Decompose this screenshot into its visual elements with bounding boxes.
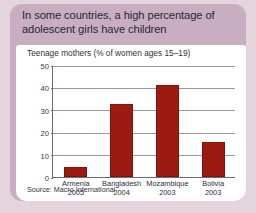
bar [202,142,225,177]
plot-wrapper: 01020304050Armenia2005Bangladesh2004Moza… [16,45,246,201]
category-year: 2003 [145,189,191,198]
bar [156,85,179,177]
y-axis-tick-mark [51,178,53,179]
plot-area: 01020304050Armenia2005Bangladesh2004Moza… [52,66,235,178]
source-note: Source: Macro International [27,185,115,194]
y-axis-tick-mark [51,110,53,111]
bar [64,167,87,177]
y-axis-tick-label: 50 [41,62,49,71]
category-name: Mozambique [146,179,188,188]
y-axis-tick-mark [51,155,53,156]
gridline [53,110,235,111]
figure-card: In some countries, a high percentage of … [10,4,246,201]
x-axis-category-label: Bolivia2003 [190,180,236,197]
gridline [53,133,235,134]
y-axis-tick-label: 0 [45,174,49,183]
category-name: Bolivia [202,179,224,188]
bar [110,104,133,177]
gridline [53,88,235,89]
y-axis-tick-label: 20 [41,129,49,138]
category-year: 2003 [190,189,236,198]
y-axis-tick-mark [51,133,53,134]
y-axis-tick-mark [51,88,53,89]
y-axis-tick-label: 40 [41,84,49,93]
y-axis-tick-mark [51,66,53,67]
figure-headline: In some countries, a high percentage of … [22,9,238,36]
y-axis-tick-label: 10 [41,151,49,160]
y-axis-tick-label: 30 [41,106,49,115]
gridline [53,66,235,67]
x-axis-category-label: Mozambique2003 [145,180,191,197]
chart-panel: Teenage mothers (% of women ages 15–19) … [16,45,246,201]
